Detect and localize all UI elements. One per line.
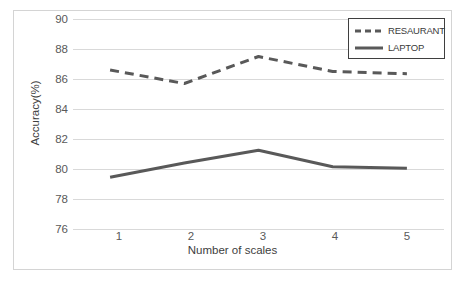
- y-tick-label: 76: [36, 223, 68, 235]
- x-tick-label: 4: [320, 230, 350, 242]
- legend-label: RESAURANT: [388, 25, 445, 36]
- x-tick-label: 5: [392, 230, 422, 242]
- chart-legend: RESAURANT LAPTOP: [348, 18, 445, 59]
- y-tick-label: 84: [36, 103, 68, 115]
- dashed-line-icon: [354, 26, 384, 36]
- legend-item-resaurant: RESAURANT: [349, 22, 444, 39]
- x-tick-label: 1: [104, 230, 134, 242]
- x-tick-label: 2: [176, 230, 206, 242]
- series-line-laptop: [110, 150, 407, 177]
- x-axis-title: Number of scales: [14, 244, 451, 256]
- y-tick-label: 90: [36, 13, 68, 25]
- series-line-resaurant: [110, 57, 407, 84]
- line-chart: Accuracy(%) 90 88 86 84 82 80 78 76: [14, 11, 451, 269]
- figure-caption: [0, 286, 465, 298]
- legend-item-laptop: LAPTOP: [349, 39, 444, 56]
- y-tick-label: 82: [36, 133, 68, 145]
- y-tick-label: 86: [36, 73, 68, 85]
- y-tick-label: 78: [36, 193, 68, 205]
- solid-line-icon: [354, 43, 384, 53]
- y-axis-tick-labels: 90 88 86 84 82 80 78 76: [36, 11, 68, 269]
- y-tick-label: 88: [36, 43, 68, 55]
- figure-frame: Accuracy(%) 90 88 86 84 82 80 78 76: [13, 10, 452, 270]
- x-tick-label: 3: [248, 230, 278, 242]
- legend-label: LAPTOP: [388, 42, 424, 53]
- y-tick-label: 80: [36, 163, 68, 175]
